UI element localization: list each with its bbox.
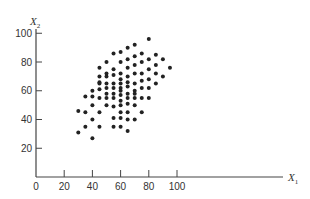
data-point [112,116,116,120]
x-axis-title: X1 [287,171,299,186]
data-points [76,37,172,140]
data-point [119,77,123,81]
data-point [133,89,137,93]
x-tick-label: 40 [87,181,99,192]
data-point [126,96,130,100]
y-tick-label: 80 [21,57,33,68]
data-point [126,57,130,61]
data-point [154,82,158,86]
data-point [112,105,116,109]
axes: 20406080100 020406080100 [15,28,283,192]
data-point [126,84,130,88]
x-tick-label: 0 [33,181,39,192]
data-point [119,116,123,120]
data-point [112,96,116,100]
data-point [97,66,101,70]
data-point [126,46,130,50]
data-point [76,130,80,134]
data-point [126,74,130,78]
data-point [133,103,137,107]
data-point [90,95,94,99]
data-point [105,86,109,90]
data-point [112,67,116,71]
data-point [168,66,172,70]
data-point [147,77,151,81]
x-tick-label: 20 [59,181,71,192]
data-point [147,57,151,61]
data-point [97,74,101,78]
data-point [90,136,94,140]
x-tick-label: 60 [115,181,127,192]
data-point [97,87,101,91]
data-point [112,73,116,77]
data-point [119,72,123,76]
data-point [133,72,137,76]
data-point [90,103,94,107]
data-point [112,125,116,129]
data-point [112,51,116,55]
data-point [126,92,130,96]
data-point [147,37,151,41]
data-point [126,102,130,106]
data-point [97,110,101,114]
data-point [112,86,116,90]
data-point [119,125,123,129]
y-tick-label: 40 [21,114,33,125]
data-point [119,50,123,54]
data-point [119,110,123,114]
data-point [133,96,137,100]
data-point [161,74,165,78]
data-point [126,66,130,70]
data-point [97,80,101,84]
data-point [105,72,109,76]
x-ticks: 020406080100 [33,170,186,192]
data-point [90,89,94,93]
data-point [119,60,123,64]
x-tick-label: 80 [143,181,155,192]
data-point [161,57,165,61]
data-point [119,103,123,107]
data-point [140,60,144,64]
data-point [119,86,123,90]
data-point [140,51,144,55]
data-point [133,118,137,122]
data-point [147,86,151,90]
data-point [119,99,123,103]
y-ticks: 20406080100 [15,28,42,154]
data-point [105,82,109,86]
data-point [140,110,144,114]
data-point [140,79,144,83]
data-point [154,72,158,76]
data-point [126,129,130,133]
data-point [133,63,137,67]
y-tick-label: 20 [21,143,33,154]
data-point [83,110,87,114]
data-point [154,53,158,57]
data-point [105,103,109,107]
data-point [133,54,137,58]
data-point [112,82,116,86]
data-point [90,118,94,122]
data-point [147,96,151,100]
data-point [105,96,109,100]
data-point [97,96,101,100]
data-point [140,72,144,76]
data-point [119,93,123,97]
data-point [147,67,151,71]
data-point [126,80,130,84]
data-point [105,60,109,64]
data-point [119,82,123,86]
data-point [133,43,137,47]
data-point [76,109,80,113]
data-point [133,82,137,86]
data-point [140,86,144,90]
data-point [105,92,109,96]
y-tick-label: 60 [21,85,33,96]
scatter-chart: 20406080100 020406080100 X2 X1 [0,0,310,199]
data-point [83,95,87,99]
data-point [140,96,144,100]
data-point [97,125,101,129]
data-point [126,110,130,114]
y-tick-label: 100 [15,28,32,39]
data-point [126,118,130,122]
